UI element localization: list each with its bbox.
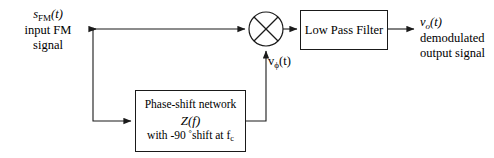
input-signal-symbol: sFM(t)	[6, 7, 90, 23]
low-pass-filter-block[interactable]: Low Pass Filter	[300, 10, 388, 50]
input-signal-label: sFM(t) input FM signal	[6, 7, 90, 53]
wire-phase-shift-network-to-multiplier	[246, 51, 266, 121]
phase-shift-network-title: Phase-shift network	[145, 98, 237, 112]
phase-shift-network-spec: with -90 °shift at fc	[147, 129, 234, 144]
block-diagram-canvas: sFM(t) input FM signal vϕ(t) Low Pass Fi…	[0, 0, 494, 158]
input-signal-desc-line2: signal	[6, 38, 90, 53]
input-signal-desc-line1: input FM	[6, 23, 90, 38]
wire-branch-to-phase-shift-network	[93, 29, 131, 121]
output-signal-desc-line2: output signal	[420, 46, 485, 61]
output-signal-symbol: vo(t)	[420, 15, 485, 31]
output-signal-label: vo(t) demodulated output signal	[420, 15, 485, 61]
quadrature-signal-label: vϕ(t)	[268, 54, 291, 70]
phase-shift-network-block[interactable]: Phase-shift network Z(f) with -90 °shift…	[135, 90, 246, 152]
phase-shift-network-transfer-function: Z(f)	[181, 113, 201, 128]
multiplier-symbol	[249, 12, 283, 46]
low-pass-filter-label: Low Pass Filter	[305, 23, 383, 38]
output-signal-desc-line1: demodulated	[420, 31, 485, 46]
